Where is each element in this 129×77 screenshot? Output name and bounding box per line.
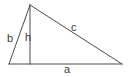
base-a-label: a (64, 64, 70, 75)
side-b-label: b (7, 33, 13, 44)
height-h-label: h (25, 32, 31, 43)
side-c-label: c (71, 22, 77, 33)
side-c-line (30, 5, 122, 64)
triangle-diagram: b h c a (0, 0, 129, 77)
